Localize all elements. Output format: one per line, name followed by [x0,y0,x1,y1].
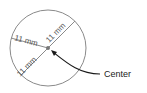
circle-diagram: 11 mm 11 mm 11 mm Center [0,0,147,93]
radius-label-left: 11 mm [13,33,39,48]
center-label: Center [104,69,131,79]
callout-arrow-line [53,52,100,74]
radius-label-bottom-left: 11 mm [15,55,38,78]
center-dot [46,46,50,50]
